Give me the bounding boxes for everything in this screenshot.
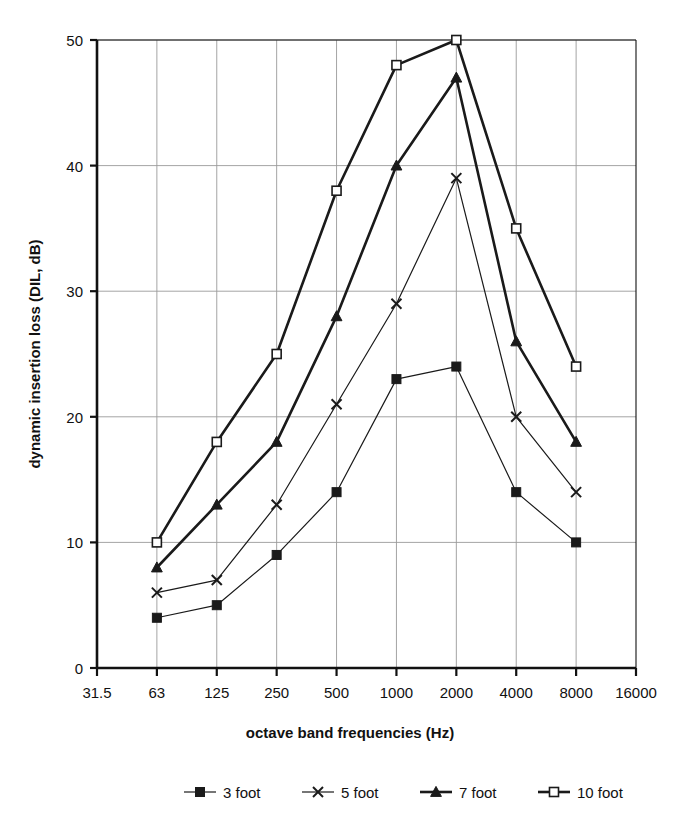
y-tick-label: 40	[66, 158, 83, 175]
data-point-marker-filled-square	[392, 375, 401, 384]
x-tick-label: 2000	[440, 684, 473, 701]
legend-label: 5 foot	[341, 784, 379, 801]
x-tick-label: 125	[204, 684, 229, 701]
x-tick-label: 4000	[500, 684, 533, 701]
data-point-marker-filled-square	[452, 362, 461, 371]
legend-label: 7 foot	[459, 784, 497, 801]
x-tick-label: 16000	[615, 684, 657, 701]
x-tick-label: 8000	[559, 684, 592, 701]
x-tick-label: 63	[149, 684, 166, 701]
data-point-marker-filled-square	[332, 488, 341, 497]
x-tick-label: 1000	[380, 684, 413, 701]
y-tick-label: 30	[66, 283, 83, 300]
y-tick-label: 50	[66, 32, 83, 49]
legend-label: 10 foot	[577, 784, 624, 801]
y-tick-label: 20	[66, 409, 83, 426]
y-tick-label: 10	[66, 534, 83, 551]
data-point-marker-open-square	[332, 186, 341, 195]
data-point-marker-filled-square	[512, 488, 521, 497]
data-point-marker-filled-square	[212, 601, 221, 610]
data-point-marker-open-square	[452, 36, 461, 45]
y-axis-title: dynamic insertion loss (DIL, dB)	[26, 239, 43, 468]
data-point-marker-open-square	[550, 788, 559, 797]
x-tick-label: 500	[324, 684, 349, 701]
x-axis-title: octave band frequencies (Hz)	[246, 724, 454, 741]
legend-label: 3 foot	[223, 784, 261, 801]
x-tick-label: 31.5	[82, 684, 111, 701]
data-point-marker-filled-square	[272, 550, 281, 559]
data-point-marker-open-square	[272, 350, 281, 359]
chart-figure: 31.563125250500100020004000800016000 010…	[0, 0, 695, 822]
data-point-marker-open-square	[152, 538, 161, 547]
y-tick-label: 0	[75, 660, 83, 677]
data-point-marker-open-square	[512, 224, 521, 233]
data-point-marker-filled-square	[196, 788, 205, 797]
dil-line-chart: 31.563125250500100020004000800016000 010…	[0, 0, 695, 822]
data-point-marker-filled-square	[572, 538, 581, 547]
data-point-marker-open-square	[392, 61, 401, 70]
data-point-marker-open-square	[572, 362, 581, 371]
data-point-marker-filled-square	[152, 613, 161, 622]
x-tick-label: 250	[264, 684, 289, 701]
data-point-marker-open-square	[212, 437, 221, 446]
